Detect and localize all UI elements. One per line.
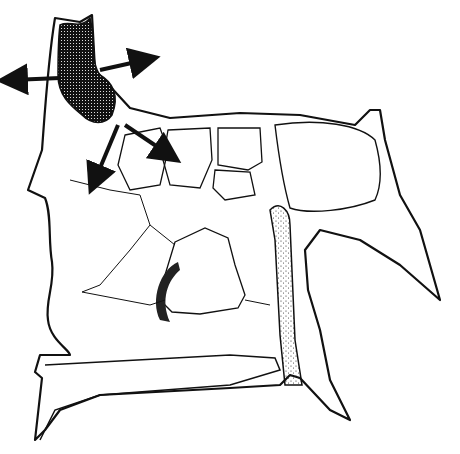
palate	[40, 355, 280, 440]
sphenoid-sinus	[275, 122, 380, 211]
arrow-inferior-icon	[95, 125, 118, 180]
arrow-ethmoid-icon	[125, 125, 168, 154]
arrow-posterior-icon	[100, 60, 145, 70]
arrow-anterior-icon	[12, 78, 60, 80]
sinus-diagram	[0, 0, 460, 454]
turbinate	[156, 262, 180, 322]
suture-lines	[70, 180, 270, 305]
anatomy-drawing	[0, 0, 460, 454]
